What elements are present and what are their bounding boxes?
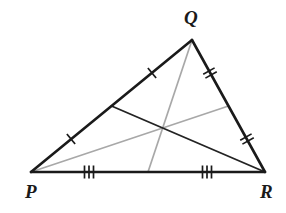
triangle-diagram: [0, 0, 286, 213]
median-from-Q: [148, 40, 192, 172]
geometry-figure: Q P R: [0, 0, 286, 213]
side-QR: [192, 40, 265, 172]
median-from-P: [31, 106, 229, 172]
vertex-label-P: P: [25, 182, 37, 201]
side-PQ: [31, 40, 192, 172]
tick-mark-group: [67, 68, 254, 179]
vertex-label-R: R: [260, 182, 273, 201]
triangle-edges-group: [31, 40, 265, 172]
vertex-label-Q: Q: [184, 8, 198, 27]
